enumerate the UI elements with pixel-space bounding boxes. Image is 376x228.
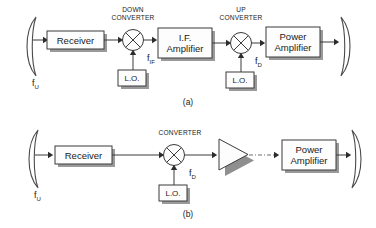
panel-a-down-freq-label: fD: [255, 56, 263, 68]
panel-b-triangle-amplifier-icon[interactable]: [219, 139, 254, 176]
panel-b-input-freq-label: fU: [34, 190, 41, 202]
panel-a-if-amplifier-label-line1: I.F.: [179, 32, 192, 43]
panel-b-transmit-antenna-icon: [352, 130, 361, 188]
panel-a-up-converter-caption-line1: UP: [236, 6, 246, 13]
panel-b-converter-mixer-icon[interactable]: [164, 145, 190, 169]
diagram-canvas: fU Receiver DOWN CONVERTER: [0, 0, 376, 228]
panel-b-lo-block[interactable]: L.O.: [159, 185, 190, 204]
panel-b-power-amplifier-label-line1: Power: [296, 144, 323, 155]
panel-b-receive-antenna-icon: [29, 130, 38, 188]
panel-a-up-converter-mixer-icon[interactable]: [231, 33, 257, 57]
panel-b-receiver-label: Receiver: [65, 150, 103, 161]
panel-b-converter-caption: CONVERTER: [158, 129, 201, 136]
panel-b-caption: (b): [183, 209, 194, 219]
panel-b: fU Receiver CONVERTER: [29, 129, 361, 219]
panel-a-power-amplifier-label-line2: Amplifier: [275, 42, 312, 53]
panel-a-power-amplifier-block[interactable]: Power Amplifier: [266, 27, 323, 60]
panel-a-lo2-label: L.O.: [232, 76, 247, 85]
block-diagram-figure: fU Receiver DOWN CONVERTER: [0, 0, 376, 228]
panel-a-down-converter-caption-line1: DOWN: [122, 6, 144, 13]
panel-a-if-amplifier-block[interactable]: I.F. Amplifier: [158, 28, 215, 61]
panel-b-receiver-block[interactable]: Receiver: [55, 146, 115, 167]
panel-a-caption: (a): [183, 97, 194, 107]
panel-a-receiver-block[interactable]: Receiver: [47, 31, 107, 52]
panel-a-receiver-label: Receiver: [57, 35, 95, 46]
panel-a-lo1-block[interactable]: L.O.: [118, 70, 149, 89]
panel-a-transmit-antenna-icon: [341, 17, 350, 76]
panel-a-input-freq-label: fU: [32, 78, 39, 90]
panel-a-up-converter-caption-line2: CONVERTER: [219, 14, 262, 21]
panel-a-if-freq-label: fIF: [147, 53, 155, 65]
panel-a-lo2-block[interactable]: L.O.: [226, 72, 257, 91]
panel-b-power-amplifier-block[interactable]: Power Amplifier: [282, 140, 339, 173]
panel-a-receive-antenna-icon: [27, 17, 36, 76]
panel-a-lo1-label: L.O.: [124, 74, 139, 83]
panel-a-down-converter-caption-line2: CONVERTER: [111, 14, 154, 21]
panel-a-power-amplifier-label-line1: Power: [280, 31, 307, 42]
panel-b-down-freq-label: fD: [189, 168, 197, 180]
panel-b-lo-label: L.O.: [165, 189, 180, 198]
panel-b-power-amplifier-label-line2: Amplifier: [291, 155, 328, 166]
panel-a: fU Receiver DOWN CONVERTER: [27, 6, 350, 107]
panel-a-if-amplifier-label-line2: Amplifier: [167, 43, 204, 54]
panel-a-down-converter-mixer-icon[interactable]: [123, 30, 149, 55]
